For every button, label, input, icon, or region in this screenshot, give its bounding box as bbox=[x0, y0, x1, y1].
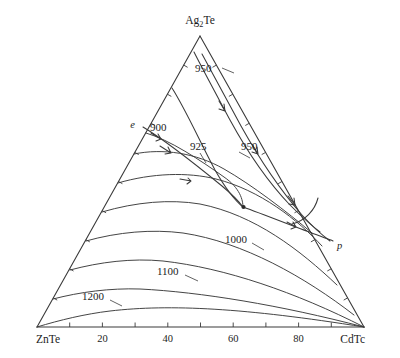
leader-950-apex bbox=[222, 68, 234, 73]
isotherm-label-1100: 1100 bbox=[157, 265, 179, 277]
boundary-925 bbox=[172, 88, 243, 207]
apex-tail: Te bbox=[203, 14, 214, 26]
corner-label-bottom-left: ZnTe bbox=[36, 333, 60, 345]
tick-right-70 bbox=[245, 123, 249, 125]
tick-right-60 bbox=[262, 152, 266, 154]
point-label-peritectic-p: p bbox=[336, 240, 342, 251]
tick-left-80 bbox=[167, 94, 171, 96]
tick-right-80 bbox=[229, 94, 233, 96]
axis-tick-label-80: 80 bbox=[293, 333, 304, 344]
tick-right-20 bbox=[327, 269, 331, 271]
leader-1200 bbox=[110, 300, 122, 306]
tick-right-50 bbox=[278, 182, 282, 184]
isotherm-label-925: 925 bbox=[190, 140, 207, 152]
ternary-phase-diagram: Ag2Te ZnTe CdTc 20 40 60 80 950 900 925 … bbox=[0, 0, 400, 358]
boundary-e-to-invariant bbox=[143, 127, 243, 207]
isotherm-label-950-apex: 950 bbox=[195, 62, 212, 74]
ternary-invariant-point-dot bbox=[241, 205, 245, 209]
corner-label-bottom-right: CdTc bbox=[340, 333, 365, 345]
triangle-edges bbox=[37, 36, 364, 327]
tick-left-90 bbox=[184, 65, 188, 67]
tick-right-10 bbox=[344, 298, 348, 300]
right-axis-ticks bbox=[213, 65, 348, 300]
isotherm-curve-d bbox=[134, 152, 312, 233]
corner-label-apex: Ag2Te bbox=[185, 14, 214, 29]
bottom-axis-ticks bbox=[70, 323, 332, 328]
axis-tick-label-60: 60 bbox=[228, 333, 239, 344]
arrow-barb-1000-1 bbox=[180, 178, 191, 184]
univariant-boundaries bbox=[143, 52, 333, 241]
tick-right-90 bbox=[213, 65, 217, 67]
isotherm-curve-1100 bbox=[86, 231, 354, 315]
leader-1000 bbox=[252, 243, 264, 250]
boundary-950-right bbox=[202, 54, 330, 241]
isotherm-label-1200: 1200 bbox=[82, 290, 105, 302]
point-label-eutectic-e: e bbox=[130, 119, 135, 130]
axis-tick-label-20: 20 bbox=[97, 333, 108, 344]
leader-950-right bbox=[239, 152, 250, 158]
isotherm-label-950-right: 950 bbox=[241, 140, 258, 152]
axis-tick-label-40: 40 bbox=[163, 333, 174, 344]
tick-right-30 bbox=[311, 240, 315, 242]
boundary-invariant-to-p bbox=[243, 207, 333, 241]
ternary-diagram-canvas: Ag2Te ZnTe CdTc 20 40 60 80 950 900 925 … bbox=[0, 0, 400, 358]
arrow-barb-e-2 bbox=[160, 146, 171, 154]
arrow-barb-950-1 bbox=[219, 101, 225, 111]
isotherm-label-900: 900 bbox=[150, 121, 167, 133]
leader-1100 bbox=[185, 275, 198, 281]
isotherm-label-1000: 1000 bbox=[225, 233, 248, 245]
isotherm-curve-1000 bbox=[118, 174, 322, 246]
apex-main: Ag bbox=[185, 14, 199, 27]
